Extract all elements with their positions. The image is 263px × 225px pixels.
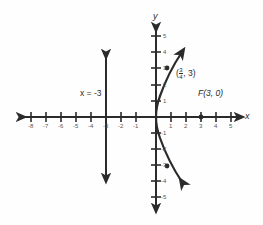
x-tick-label-4: 4 bbox=[214, 123, 217, 129]
y-tick-label--2: -2 bbox=[161, 146, 166, 152]
x-tick-label-1: 1 bbox=[169, 123, 172, 129]
point-label-suffix: , 3) bbox=[183, 68, 195, 78]
y-tick-label-4: 4 bbox=[163, 49, 166, 55]
y-tick-label-2: 2 bbox=[163, 82, 166, 88]
y-tick-label--5: -5 bbox=[161, 194, 166, 200]
directrix-label: x = -3 bbox=[80, 89, 102, 98]
focus-label: F(3, 0) bbox=[198, 89, 223, 98]
y-tick-label-3: 3 bbox=[163, 65, 166, 71]
y-tick-label--4: -4 bbox=[161, 178, 166, 184]
point-label-fraction: 34 bbox=[179, 67, 183, 81]
x-tick-label-5: 5 bbox=[229, 123, 232, 129]
x-tick-label-2: 2 bbox=[184, 123, 187, 129]
point-label: (34, 3) bbox=[176, 67, 195, 81]
x-axis bbox=[22, 112, 240, 122]
y-tick-label--3: -3 bbox=[161, 162, 166, 168]
x-tick-label--7: -7 bbox=[43, 123, 48, 129]
x-tick-label--5: -5 bbox=[73, 123, 78, 129]
x-tick-label--1: -1 bbox=[133, 123, 138, 129]
x-tick-label--2: -2 bbox=[118, 123, 123, 129]
coordinate-plane-svg bbox=[0, 0, 263, 225]
y-tick-label--1: -1 bbox=[161, 130, 166, 136]
x-tick-label-3: 3 bbox=[199, 123, 202, 129]
fraction-denominator: 4 bbox=[179, 74, 183, 80]
y-tick-label-1: 1 bbox=[163, 98, 166, 104]
x-tick-label--3: -3 bbox=[103, 123, 108, 129]
x-tick-label--4: -4 bbox=[88, 123, 93, 129]
focus-point-marker bbox=[199, 115, 204, 120]
x-tick-label--8: -8 bbox=[28, 123, 33, 129]
fraction-numerator: 3 bbox=[179, 67, 183, 74]
graph-figure: -8 -7 -6 -5 -4 -3 -2 -1 1 2 3 4 5 5 4 3 … bbox=[0, 0, 263, 225]
x-tick-label--6: -6 bbox=[58, 123, 63, 129]
y-axis-label: y bbox=[153, 12, 158, 21]
x-axis-label: x bbox=[245, 112, 250, 121]
y-tick-label-5: 5 bbox=[163, 33, 166, 39]
